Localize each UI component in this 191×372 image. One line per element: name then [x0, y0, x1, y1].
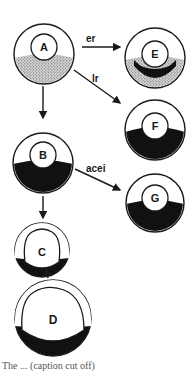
figure-caption: The ... (caption cut off) — [2, 360, 95, 371]
stage-b: B — [13, 133, 73, 198]
stage-e: E — [125, 28, 185, 95]
stage-d: D — [15, 280, 91, 356]
stage-c-label: C — [38, 246, 46, 258]
stage-g: G — [126, 174, 184, 235]
stage-f: F — [125, 100, 185, 165]
edge-label-er: er — [86, 33, 96, 44]
developmental-stage-diagram: A E F B G C D — [0, 0, 191, 372]
edge-label-lr: lr — [92, 73, 99, 84]
stage-f-label: F — [152, 120, 159, 132]
stage-a-label: A — [40, 41, 48, 53]
stage-g-label: G — [151, 192, 160, 204]
stage-e-label: E — [151, 48, 158, 60]
edge-label-acei: acei — [86, 163, 106, 174]
stage-c: C — [15, 223, 69, 277]
stage-a: A — [14, 24, 74, 90]
stage-d-label: D — [49, 313, 58, 327]
stage-b-label: B — [39, 149, 47, 161]
